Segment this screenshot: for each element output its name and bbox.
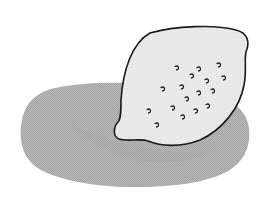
illustration-canvas: Black-and-white halftone illustration of… [0,0,272,201]
lemon-illustration [0,0,272,201]
